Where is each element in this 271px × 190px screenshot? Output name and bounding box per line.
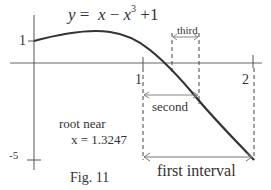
eq-plus-one: +1 — [140, 5, 158, 24]
eq-term1: x — [98, 5, 106, 24]
x-tick-label-1: 1 — [135, 73, 142, 87]
root-note-line2: x = 1.3247 — [71, 133, 127, 146]
equation-label: y = x − x3 +1 — [68, 4, 158, 23]
eq-exponent: 3 — [131, 3, 136, 14]
eq-minus: − — [110, 5, 120, 24]
x-tick-label-2: 2 — [242, 73, 249, 87]
first-interval-label: first interval — [157, 163, 236, 179]
figure-caption: Fig. 11 — [70, 171, 109, 185]
root-note-line1: root near — [59, 117, 106, 130]
eq-lhs: y — [68, 5, 76, 24]
second-interval-arrow — [144, 92, 198, 98]
third-interval-label: third — [177, 25, 198, 36]
eq-term2: x — [124, 5, 132, 24]
y-tick-label-minus5: -5 — [9, 150, 18, 161]
eq-equals: = — [80, 5, 90, 24]
first-interval-arrow — [144, 153, 252, 161]
second-interval-label: second — [152, 100, 188, 113]
y-tick-label-1: 1 — [19, 34, 26, 48]
